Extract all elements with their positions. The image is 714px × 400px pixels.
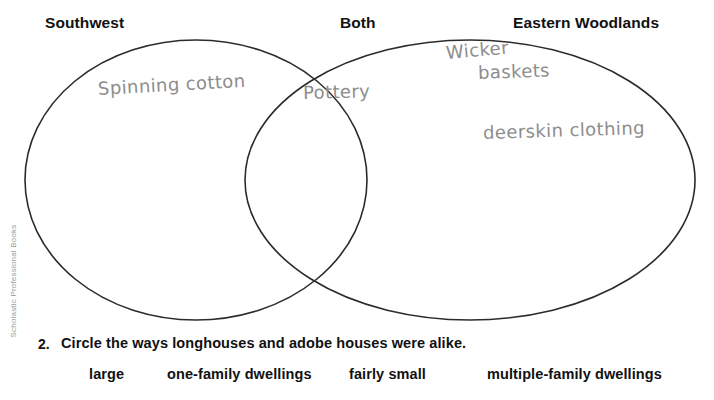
- question-row: 2. Circle the ways longhouses and adobe …: [0, 333, 714, 363]
- question-prompt: Circle the ways longhouses and adobe hou…: [61, 335, 466, 351]
- venn-entry-baskets: baskets: [478, 59, 551, 82]
- venn-diagram-svg: [0, 0, 714, 330]
- answer-options-row: large one-family dwellings fairly small …: [0, 366, 714, 396]
- worksheet-page: Southwest Both Eastern Woodlands Spinnin…: [0, 0, 714, 400]
- venn-diagram: [0, 0, 714, 330]
- answer-option-large[interactable]: large: [89, 366, 124, 382]
- answer-option-multiple-family-dwellings[interactable]: multiple-family dwellings: [487, 366, 662, 382]
- answer-option-one-family-dwellings[interactable]: one-family dwellings: [167, 366, 312, 382]
- question-number: 2.: [38, 336, 50, 352]
- answer-option-fairly-small[interactable]: fairly small: [349, 366, 426, 382]
- question-block: 2. Circle the ways longhouses and adobe …: [0, 333, 714, 396]
- publisher-credit: Scholastic Professional Books: [9, 208, 18, 338]
- venn-entry-pottery: Pottery: [303, 80, 371, 103]
